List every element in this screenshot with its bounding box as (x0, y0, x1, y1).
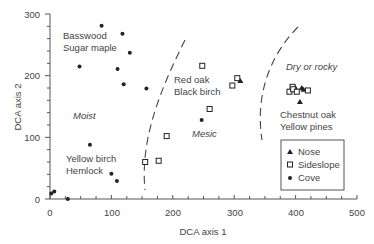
annotation-moist: Moist (73, 110, 96, 121)
data-point-cove (100, 24, 104, 28)
data-point-sideslope (164, 134, 169, 139)
x-axis-title: DCA axis 1 (180, 226, 227, 237)
legend-square-icon (288, 162, 293, 167)
annotation-hemlock: Hemlock (66, 165, 103, 176)
legend-label-cove: Cove (298, 172, 320, 183)
data-point-cove (116, 67, 120, 71)
data-point-cove (52, 190, 56, 194)
y-tick-label: 0 (35, 194, 40, 205)
y-axis (45, 14, 50, 199)
data-point-sideslope (294, 89, 299, 94)
x-tick-label: 100 (104, 207, 120, 218)
annotation-yellow-pines: Yellow pines (280, 121, 333, 132)
data-point-sideslope (305, 88, 310, 93)
data-point-sideslope (230, 83, 235, 88)
data-point-sideslope (200, 63, 205, 68)
data-point-cove (66, 197, 70, 201)
data-point-cove (200, 118, 204, 122)
annotation-black-birch: Black birch (174, 86, 220, 97)
data-point-sideslope (207, 106, 212, 111)
annotation-basswood: Basswood (63, 30, 107, 41)
boundary-moist-mesic (144, 40, 185, 190)
y-tick-labels: 0 100 200 300 (24, 9, 40, 205)
data-point-cove (144, 87, 148, 91)
annotation-dry-rocky: Dry or rocky (286, 61, 338, 72)
x-tick-labels: 0 100 200 300 400 500 (47, 207, 365, 218)
data-point-cove (128, 51, 132, 55)
data-point-cove (115, 179, 119, 183)
data-point-sideslope (235, 76, 240, 81)
annotation-red-oak: Red oak (174, 74, 210, 85)
data-point-nose (297, 99, 303, 104)
x-tick-label: 300 (227, 207, 243, 218)
legend: Nose Sideslope Cove (281, 140, 344, 190)
data-point-cove (88, 143, 92, 147)
x-tick-label: 500 (349, 207, 365, 218)
annotation-yellow-birch: Yellow birch (66, 153, 116, 164)
legend-circle-icon (288, 176, 292, 180)
y-tick-label: 300 (24, 9, 40, 20)
y-axis-title: DCA axis 2 (12, 84, 23, 131)
annotation-chestnut-oak: Chestnut oak (280, 109, 336, 120)
legend-label-nose: Nose (298, 146, 320, 157)
data-point-sideslope (156, 158, 161, 163)
data-point-cove (120, 32, 124, 36)
x-tick-label: 200 (165, 207, 181, 218)
dca-scatter-chart: 0 100 200 300 0 100 200 300 400 500 DCA … (0, 0, 374, 244)
data-point-cove (77, 64, 81, 68)
data-point-sideslope (143, 160, 148, 165)
annotation-sugar-maple: Sugar maple (63, 42, 117, 53)
data-point-cove (109, 172, 113, 176)
data-point-cove (122, 82, 126, 86)
x-tick-label: 0 (47, 207, 52, 218)
x-axis (50, 195, 357, 199)
x-tick-label: 400 (288, 207, 304, 218)
y-tick-label: 100 (24, 132, 40, 143)
legend-label-sideslope: Sideslope (298, 159, 340, 170)
y-tick-label: 200 (24, 70, 40, 81)
annotation-mesic: Mesic (192, 128, 217, 139)
